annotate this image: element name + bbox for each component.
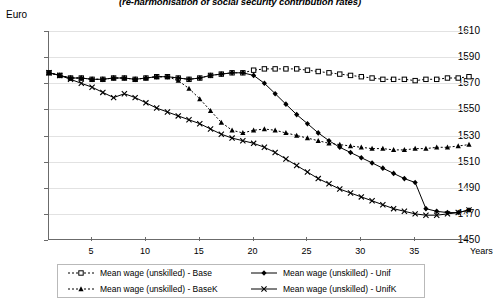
x-tick-label: 10 [136,246,154,256]
legend-item[interactable]: Mean wage (unskilled) - Unif [241,268,424,278]
legend: Mean wage (unskilled) - BaseMean wage (u… [57,264,425,298]
y-tick-mark [44,240,48,241]
x-tick-label: 5 [82,246,100,256]
legend-item[interactable]: Mean wage (unskilled) - Base [58,268,241,278]
legend-swatch-x-icon [249,284,279,294]
legend-swatch-triangle-icon [66,284,96,294]
series-lines [49,31,469,240]
x-tick-label: 35 [405,246,423,256]
x-tick-label: 15 [190,246,208,256]
x-axis-label: Years [470,246,493,256]
legend-label: Mean wage (unskilled) - BaseK [100,284,218,294]
legend-swatch-square-icon [66,268,96,278]
series-triangle [46,70,471,152]
chart-title: (re-harmonisation of social security con… [62,0,418,7]
legend-item[interactable]: Mean wage (unskilled) - UnifK [241,284,424,294]
legend-label: Mean wage (unskilled) - Base [100,268,212,278]
legend-label: Mean wage (unskilled) - UnifK [283,284,396,294]
plot-area [48,31,468,240]
series-square [47,67,471,83]
x-tick-label: 30 [351,246,369,256]
y-axis-label: Euro [6,9,27,20]
series-diamond [46,70,471,215]
legend-item[interactable]: Mean wage (unskilled) - BaseK [58,284,241,294]
series-x [46,70,471,218]
legend-swatch-diamond-icon [249,268,279,278]
x-tick-label: 20 [244,246,262,256]
x-tick-label: 25 [297,246,315,256]
legend-label: Mean wage (unskilled) - Unif [283,268,391,278]
